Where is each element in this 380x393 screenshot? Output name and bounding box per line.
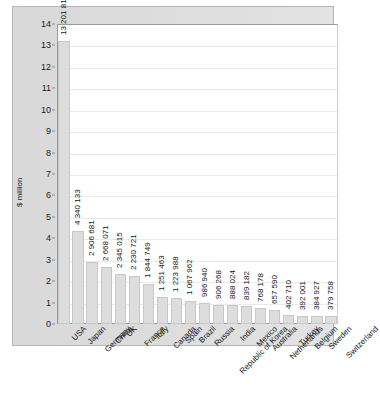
bar-group: 986 940 [198,24,212,324]
bar[interactable] [199,303,210,324]
bar[interactable] [115,274,126,324]
bar-group: 906 268 [212,24,226,324]
bar[interactable] [325,316,336,324]
bar[interactable] [255,308,266,324]
bar[interactable] [213,305,224,324]
bar[interactable] [157,297,168,324]
bar-group: 2 230 721 [127,24,141,324]
bar-value-label: 657 590 [270,275,278,304]
bar-value-label: 2 668 071 [102,225,110,261]
y-tick-label: 7 [46,170,51,179]
y-tick-mark [52,109,55,110]
y-tick-mark [52,131,55,132]
bar-value-label: 986 940 [200,268,208,297]
bar-value-label: 888 024 [228,270,236,299]
bar-value-label: 768 178 [256,273,264,302]
bar-value-label: 384 927 [312,281,320,310]
bar[interactable] [185,301,196,324]
y-tick-label: 3 [46,255,51,264]
bar[interactable] [129,276,140,324]
bar-group: 2 345 015 [113,24,127,324]
bar-group: 839 182 [240,24,254,324]
bar-group: 402 710 [282,24,296,324]
y-tick-label: 13 [41,41,51,50]
bar-value-label: 379 758 [326,281,334,310]
y-tick-mark [52,281,55,282]
y-tick-mark [52,195,55,196]
bar[interactable] [171,298,182,324]
chart-panel: $ million 01234567891011121314 13 201 81… [12,6,334,346]
y-tick-mark [52,88,55,89]
x-axis-labels: USAJapanGermanyChinaUKFranceItalyCanadaS… [57,325,338,393]
bar-value-label: 2 906 681 [88,220,96,256]
bar-group: 379 758 [324,24,338,324]
y-tick-label: 1 [46,298,51,307]
y-tick-label: 0 [46,320,51,329]
bar[interactable] [297,316,308,324]
y-tick-mark [52,174,55,175]
y-tick-label: 8 [46,148,51,157]
bar-group: 888 024 [226,24,240,324]
x-axis-label: India [239,325,257,343]
bar-group: 384 927 [310,24,324,324]
bar[interactable] [101,267,112,324]
bar-value-label: 1 223 988 [172,256,180,292]
bar-group: 1 223 988 [169,24,183,324]
bar-group: 4 340 133 [71,24,85,324]
bar[interactable] [241,306,252,324]
bar-group: 392 001 [296,24,310,324]
y-tick-mark [52,238,55,239]
y-tick-label: 4 [46,234,51,243]
y-tick-label: 11 [42,84,51,93]
bar-value-label: 4 340 133 [74,189,82,225]
bars-layer: 13 201 8194 340 1332 906 6812 668 0712 3… [57,24,338,324]
y-tick-label: 2 [46,277,51,286]
bar-value-label: 402 710 [284,280,292,309]
y-axis-ticks: 01234567891011121314 [13,24,55,324]
y-tick-mark [52,216,55,217]
bar[interactable] [72,231,83,324]
bar-value-label: 2 230 721 [130,235,138,271]
bar-group: 13 201 819 [57,24,71,324]
bar[interactable] [143,284,154,324]
y-tick-mark [52,259,55,260]
bar[interactable] [283,315,294,324]
y-tick-mark [52,45,55,46]
bar-value-label: 1 844 749 [144,243,152,279]
bar[interactable] [227,305,238,324]
bar-value-label: 13 201 819 [60,0,68,35]
y-tick-label: 9 [46,127,51,136]
y-tick-mark [52,152,55,153]
bar-value-label: 906 268 [214,270,222,299]
bar-value-label: 2 345 015 [116,232,124,268]
y-tick-label: 10 [41,105,51,114]
y-tick-label: 5 [46,212,51,221]
bar-group: 1 251 463 [155,24,169,324]
y-tick-label: 12 [41,62,51,71]
y-tick-mark [52,302,55,303]
bar-group: 2 668 071 [99,24,113,324]
bar-value-label: 1 067 962 [186,260,194,296]
x-axis-label: Russia [213,325,236,348]
bar-group: 768 178 [254,24,268,324]
y-tick-mark [52,66,55,67]
bar-value-label: 1 251 463 [158,256,166,292]
bar-value-label: 392 001 [298,281,306,310]
bar-value-label: 839 182 [242,271,250,300]
bar-group: 657 590 [268,24,282,324]
y-tick-mark [52,324,55,325]
bar-group: 1 067 962 [183,24,197,324]
y-tick-label: 6 [46,191,51,200]
bar-group: 2 906 681 [85,24,99,324]
y-tick-label: 14 [41,20,51,29]
bar[interactable] [311,316,322,324]
y-tick-mark [52,24,55,25]
bar[interactable] [269,310,280,324]
bar[interactable] [86,262,97,324]
bar-group: 1 844 749 [141,24,155,324]
x-axis-label: Japan [86,325,107,346]
bar[interactable] [58,41,69,324]
